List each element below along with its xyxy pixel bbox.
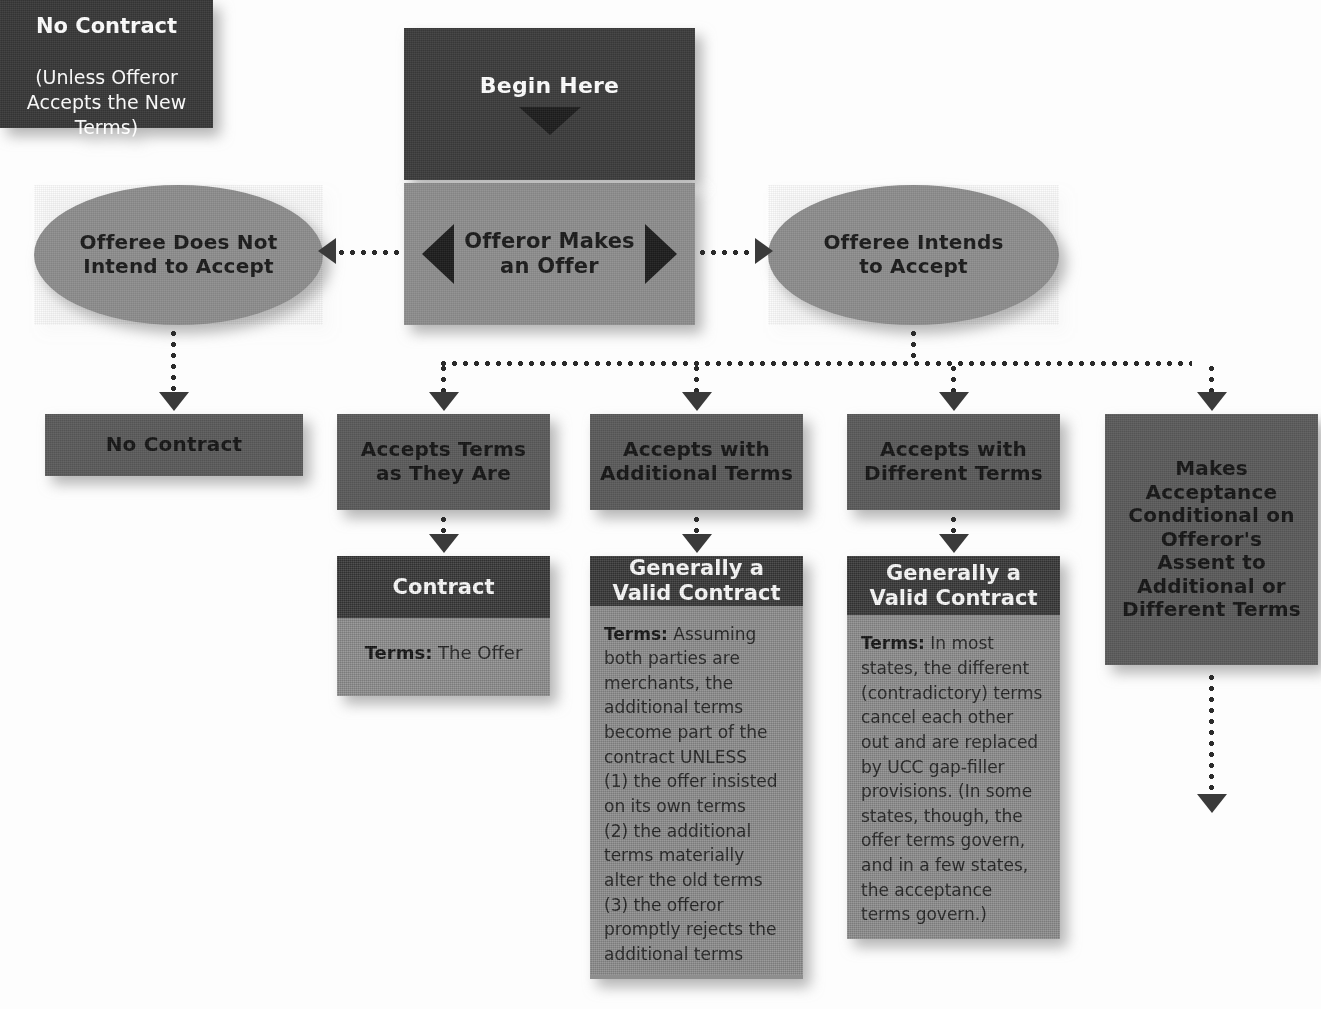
arrow-down-icon [429, 392, 459, 411]
node-offeree-intends-to-accept[interactable]: Offeree Intends to Accept [768, 185, 1059, 325]
card-generally-valid-additional-body: Terms: Assuming both parties are merchan… [590, 606, 803, 979]
arrow-left-icon [318, 238, 336, 264]
node-accepts-with-different-terms-label: Accepts with Different Terms [864, 438, 1043, 485]
triangle-right-icon [645, 224, 677, 284]
node-begin-here-label: Begin Here [480, 73, 619, 99]
node-accepts-with-additional-terms[interactable]: Accepts with Additional Terms [590, 414, 803, 510]
arrow-right-icon [755, 238, 773, 264]
node-offeree-intends-to-accept-label: Offeree Intends to Accept [823, 231, 1003, 278]
node-no-contract-bottom[interactable]: No Contract (Unless Offeror Accepts the … [0, 0, 213, 128]
connector-branch-3 [951, 363, 956, 393]
connector-conditional-to-no-contract [1209, 672, 1214, 794]
node-makes-acceptance-conditional-label: Makes Acceptance Conditional on Offeror'… [1122, 457, 1301, 622]
card-generally-valid-different[interactable]: Generally a Valid Contract Terms: In mos… [847, 556, 1060, 939]
connector-offeror-to-left-oval [336, 250, 402, 255]
node-accepts-terms-as-they-are[interactable]: Accepts Terms as They Are [337, 414, 550, 510]
connector-branch-bus [438, 361, 1192, 366]
card-contract-terms-label: Terms: [365, 642, 433, 663]
card-contract-body: Terms: The Offer [337, 618, 550, 696]
card-different-terms-label: Terms: [861, 633, 925, 653]
connector-branch-2 [694, 363, 699, 393]
arrow-down-icon [939, 392, 969, 411]
arrow-down-icon [682, 534, 712, 553]
triangle-down-icon [519, 107, 581, 135]
node-accepts-with-additional-terms-label: Accepts with Additional Terms [600, 438, 793, 485]
arrow-down-icon [939, 534, 969, 553]
card-contract-header: Contract [337, 556, 550, 618]
node-no-contract-top[interactable]: No Contract [45, 414, 303, 476]
connector-accepts-terms-to-contract [441, 514, 446, 536]
connector-left-oval-to-no-contract [171, 328, 176, 394]
arrow-down-icon [159, 392, 189, 411]
node-offeree-does-not-intend-to-accept[interactable]: Offeree Does Not Intend to Accept [34, 185, 323, 325]
connector-branch-4 [1209, 363, 1214, 393]
node-accepts-terms-as-they-are-label: Accepts Terms as They Are [361, 438, 526, 485]
node-begin-here[interactable]: Begin Here [404, 28, 695, 180]
node-no-contract-top-label: No Contract [106, 433, 243, 457]
card-contract[interactable]: Contract Terms: The Offer [337, 556, 550, 696]
flowchart-canvas: Begin Here Offeror Makes an Offer Offere… [0, 0, 1321, 1009]
connector-right-oval-stem [911, 328, 916, 364]
connector-offeror-to-right-oval [697, 250, 757, 255]
node-offeror-makes-an-offer-label: Offeror Makes an Offer [464, 229, 635, 279]
connector-branch-1 [441, 363, 446, 393]
arrow-down-icon [1197, 794, 1227, 813]
card-additional-terms-label: Terms: [604, 624, 668, 644]
card-generally-valid-different-header: Generally a Valid Contract [847, 556, 1060, 615]
card-generally-valid-additional[interactable]: Generally a Valid Contract Terms: Assumi… [590, 556, 803, 975]
card-generally-valid-additional-header: Generally a Valid Contract [590, 556, 803, 606]
connector-additional-to-card [694, 514, 699, 536]
card-different-terms-text: In most states, the different (contradic… [861, 633, 1042, 924]
arrow-down-icon [429, 534, 459, 553]
node-offeror-makes-an-offer[interactable]: Offeror Makes an Offer [404, 183, 695, 325]
arrow-down-icon [682, 392, 712, 411]
node-accepts-with-different-terms[interactable]: Accepts with Different Terms [847, 414, 1060, 510]
node-no-contract-bottom-label: No Contract [36, 14, 177, 38]
card-generally-valid-different-body: Terms: In most states, the different (co… [847, 615, 1060, 939]
node-offeree-does-not-intend-to-accept-label: Offeree Does Not Intend to Accept [80, 231, 278, 278]
card-additional-terms-text: Assuming both parties are merchants, the… [604, 624, 778, 964]
node-no-contract-bottom-sub: (Unless Offeror Accepts the New Terms) [27, 66, 186, 137]
node-makes-acceptance-conditional[interactable]: Makes Acceptance Conditional on Offeror'… [1105, 414, 1318, 665]
connector-different-to-card [951, 514, 956, 536]
arrow-down-icon [1197, 392, 1227, 411]
triangle-left-icon [422, 224, 454, 284]
card-contract-terms-text: The Offer [432, 642, 522, 663]
